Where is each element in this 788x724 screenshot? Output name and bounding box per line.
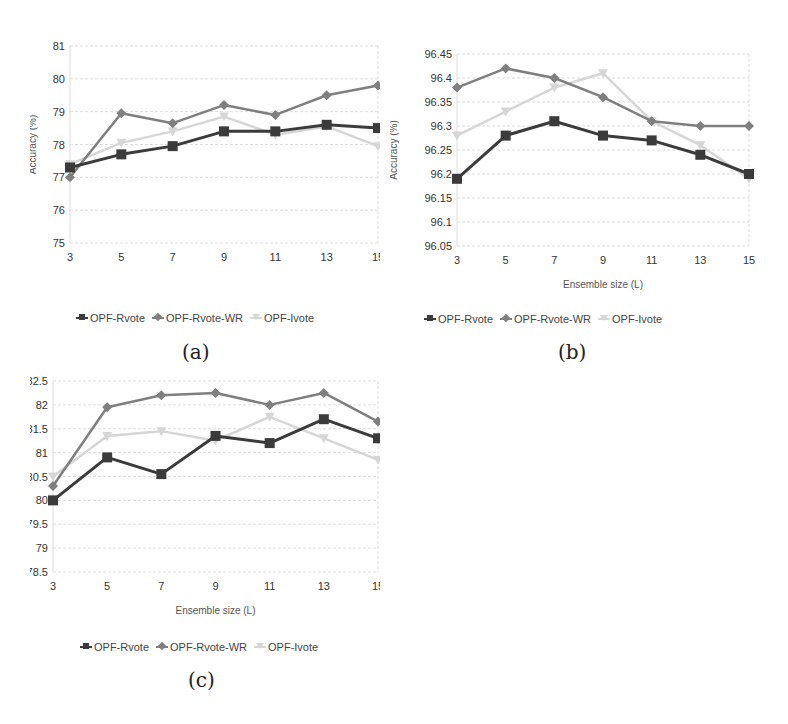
data-point-square <box>65 162 75 172</box>
data-point-square <box>48 495 58 505</box>
y-tick-label: 81 <box>53 40 65 52</box>
legend-item-opf-rvote-wr: OPF-Rvote-WR <box>500 313 591 325</box>
data-point-square <box>219 126 229 136</box>
data-point-square <box>501 131 511 141</box>
x-tick-label: 3 <box>50 580 56 592</box>
y-tick-label: 96.25 <box>424 144 452 156</box>
legend-item-opf-ivote: OPF-Ivote <box>254 641 318 653</box>
square-marker-icon <box>80 646 92 648</box>
x-axis-label: Ensemble size (L) <box>175 605 255 616</box>
data-point-square <box>319 414 329 424</box>
chart-c-caption: (c) <box>188 668 215 692</box>
series-opf-ivote <box>48 413 380 482</box>
legend-item-opf-ivote: OPF-Ivote <box>250 312 314 324</box>
y-axis-label: Accuracy (%) <box>390 120 399 179</box>
y-axis-label: Accuracy (%) <box>30 115 38 174</box>
y-tick-label: 79 <box>36 542 48 554</box>
legend-label: OPF-Ivote <box>264 312 314 324</box>
legend-label: OPF-Rvote <box>438 313 493 325</box>
chart-c-plot: 78.57979.58080.58181.58282.53579111315En… <box>30 370 380 620</box>
data-point-triangle <box>373 456 380 465</box>
x-tick-label: 3 <box>454 254 460 266</box>
x-tick-label: 15 <box>372 251 380 263</box>
y-tick-label: 96.35 <box>424 96 452 108</box>
series-opf-rvote <box>48 414 380 505</box>
y-tick-label: 82 <box>36 399 48 411</box>
x-tick-label: 7 <box>158 580 164 592</box>
chart-b-plot: 96.0596.196.1596.296.2596.396.3596.496.4… <box>390 40 770 300</box>
x-tick-label: 5 <box>503 254 509 266</box>
legend-label: OPF-Rvote-WR <box>170 641 247 653</box>
data-point-square <box>322 120 332 130</box>
data-point-diamond <box>452 83 462 93</box>
data-point-diamond <box>219 100 229 110</box>
legend-item-opf-rvote-wr: OPF-Rvote-WR <box>152 312 243 324</box>
data-point-square <box>211 431 221 441</box>
x-tick-label: 15 <box>372 580 380 592</box>
data-point-square <box>373 123 380 133</box>
x-tick-label: 3 <box>67 251 73 263</box>
x-axis-label: Ensemble size (L) <box>563 279 643 290</box>
triangle-marker-icon <box>254 646 266 648</box>
x-tick-label: 5 <box>104 580 110 592</box>
x-tick-label: 13 <box>321 251 333 263</box>
legend-item-opf-ivote: OPF-Ivote <box>598 313 662 325</box>
legend-label: OPF-Ivote <box>612 313 662 325</box>
diamond-marker-icon <box>500 318 512 320</box>
x-tick-label: 15 <box>743 254 755 266</box>
y-tick-label: 80 <box>36 494 48 506</box>
data-point-square <box>695 150 705 160</box>
y-tick-label: 76 <box>53 204 65 216</box>
legend-item-opf-rvote: OPF-Rvote <box>424 313 493 325</box>
y-tick-label: 79 <box>53 106 65 118</box>
data-point-diamond <box>598 92 608 102</box>
x-tick-label: 11 <box>646 254 657 266</box>
data-point-square <box>598 131 608 141</box>
data-point-diamond <box>156 390 166 400</box>
data-point-diamond <box>319 388 329 398</box>
chart-b-caption: (b) <box>558 340 586 364</box>
y-tick-label: 80.5 <box>30 471 48 483</box>
y-tick-label: 79.5 <box>30 518 48 530</box>
legend-label: OPF-Rvote-WR <box>166 312 243 324</box>
x-tick-label: 13 <box>694 254 706 266</box>
legend-item-opf-rvote: OPF-Rvote <box>76 312 145 324</box>
chart-a-plot: 757677787980813579111315Ensemble size (L… <box>30 40 380 270</box>
diamond-marker-icon <box>152 317 164 319</box>
x-tick-label: 9 <box>212 580 218 592</box>
triangle-marker-icon <box>250 317 262 319</box>
data-point-diamond <box>373 80 380 90</box>
y-tick-label: 81.5 <box>30 423 48 435</box>
data-point-diamond <box>744 121 754 131</box>
data-point-square <box>102 452 112 462</box>
chart-a-legend: OPF-RvoteOPF-Rvote-WROPF-Ivote <box>76 312 317 324</box>
y-tick-label: 96.45 <box>424 48 452 60</box>
y-tick-label: 80 <box>53 73 65 85</box>
legend-item-opf-rvote-wr: OPF-Rvote-WR <box>156 641 247 653</box>
chart-panel-a: 757677787980813579111315Ensemble size (L… <box>30 40 380 270</box>
series-opf-ivote <box>65 113 380 170</box>
legend-label: OPF-Rvote <box>94 641 149 653</box>
y-tick-label: 96.1 <box>431 216 452 228</box>
data-point-diamond <box>549 73 559 83</box>
y-tick-label: 96.3 <box>431 120 452 132</box>
data-point-square <box>156 469 166 479</box>
data-point-diamond <box>695 121 705 131</box>
y-tick-label: 96.4 <box>431 72 452 84</box>
data-point-diamond <box>501 63 511 73</box>
data-point-square <box>168 141 178 151</box>
legend-item-opf-rvote: OPF-Rvote <box>80 641 149 653</box>
y-tick-label: 96.05 <box>424 240 452 252</box>
data-point-triangle <box>373 142 380 151</box>
data-point-square <box>373 433 380 443</box>
data-point-square <box>549 116 559 126</box>
diamond-marker-icon <box>156 646 168 648</box>
x-tick-label: 11 <box>270 251 281 263</box>
data-point-square <box>452 174 462 184</box>
data-point-diamond <box>265 400 275 410</box>
y-tick-label: 77 <box>53 171 65 183</box>
data-point-diamond <box>211 388 221 398</box>
data-point-square <box>265 438 275 448</box>
y-tick-label: 82.5 <box>30 375 48 387</box>
x-tick-label: 7 <box>551 254 557 266</box>
